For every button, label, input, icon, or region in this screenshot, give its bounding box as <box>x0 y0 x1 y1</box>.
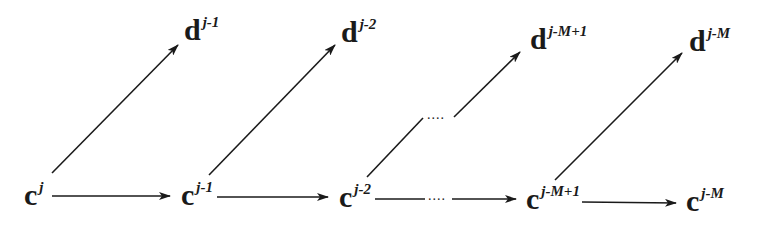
node-c-4: cj-M <box>686 186 724 216</box>
line-c2-dots <box>367 118 423 177</box>
node-d-2: dj-2 <box>341 17 376 47</box>
arrow-dots-d3 <box>454 52 520 117</box>
arrow-c1-d2 <box>209 45 335 175</box>
arrow-c0-d1 <box>52 45 178 173</box>
node-d-1: dj-1 <box>184 15 219 45</box>
node-d-4: dj-M <box>689 26 730 56</box>
ellipsis-diagonal: .... <box>427 108 445 122</box>
node-c-3: cj-M+1 <box>526 184 580 214</box>
ellipsis-horizontal: .... <box>428 189 446 203</box>
node-d-3: dj-M+1 <box>530 24 587 54</box>
wavelet-diagram: cj cj-1 cj-2 cj-M+1 cj-M dj-1 dj-2 dj-M+… <box>0 0 759 227</box>
node-c-2: cj-2 <box>339 182 371 212</box>
node-c-0: cj <box>24 180 44 210</box>
arrow-c3-d4 <box>555 53 682 180</box>
arrows-layer <box>0 0 759 227</box>
arrow-c3-c4 <box>582 202 676 203</box>
node-c-1: cj-1 <box>181 180 213 210</box>
